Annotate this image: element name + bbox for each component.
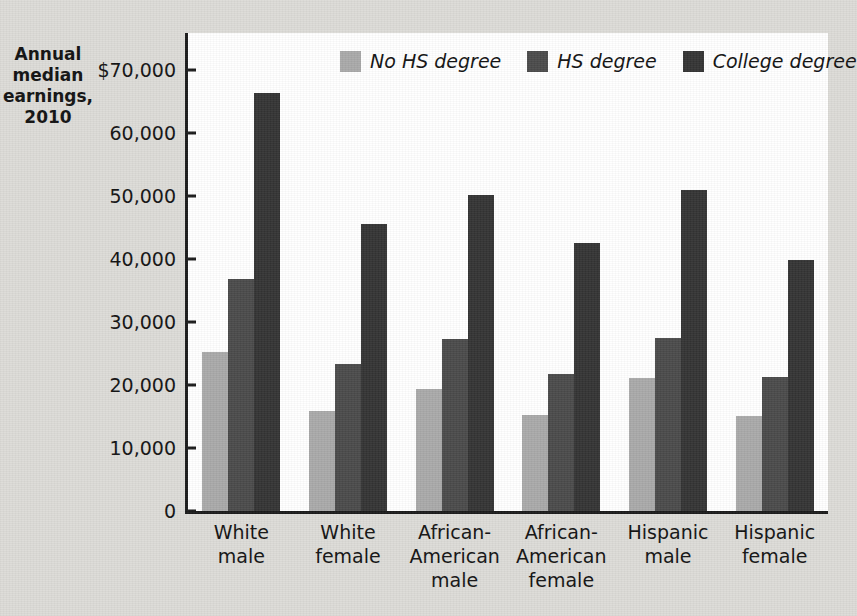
bar-group <box>629 33 707 511</box>
y-axis-tick-label: 30,000 <box>110 311 176 333</box>
bar <box>416 389 442 511</box>
x-axis-tick-label-line: African- <box>401 520 508 544</box>
legend-swatch-icon <box>527 51 548 72</box>
x-axis-tick-label-line: female <box>295 544 402 568</box>
x-axis-tick-label-line: White <box>188 520 295 544</box>
bar <box>655 338 681 511</box>
bar <box>788 260 814 511</box>
bar <box>254 93 280 511</box>
y-axis-tick-mark <box>185 384 196 387</box>
x-axis-tick-label-line: male <box>615 544 722 568</box>
bar <box>629 378 655 511</box>
y-axis-tick-label: 60,000 <box>110 122 176 144</box>
bar <box>361 224 387 511</box>
y-axis-tick-mark <box>185 321 196 324</box>
y-axis-title: Annualmedianearnings,2010 <box>0 44 96 128</box>
bar <box>468 195 494 511</box>
y-axis-tick-mark <box>185 69 196 72</box>
y-axis-tick-mark <box>185 195 196 198</box>
legend-label: College degree <box>713 50 857 72</box>
y-axis-title-line: 2010 <box>0 107 96 128</box>
bar-group <box>522 33 600 511</box>
y-axis-tick-label: 50,000 <box>110 185 176 207</box>
x-axis-tick-label-line: female <box>508 568 615 592</box>
legend-label: No HS degree <box>370 50 501 72</box>
y-axis-tick-label: 10,000 <box>110 437 176 459</box>
y-axis-tick-label: 0 <box>164 500 176 522</box>
bar-group <box>202 33 280 511</box>
y-axis-title-line: Annual <box>0 44 96 65</box>
x-axis-tick-label: African-Americanfemale <box>508 520 615 592</box>
bar-group <box>736 33 814 511</box>
y-axis-tick-label: $70,000 <box>97 59 176 81</box>
y-axis: $70,00060,00050,00040,00030,00020,00010,… <box>96 33 182 514</box>
y-axis-title-line: median <box>0 65 96 86</box>
bar <box>335 364 361 511</box>
x-axis-tick-label-line: female <box>721 544 828 568</box>
x-axis-tick-label-line: male <box>401 568 508 592</box>
bar <box>309 411 335 511</box>
bar <box>228 279 254 511</box>
y-axis-tick-mark <box>185 258 196 261</box>
bar-group <box>416 33 494 511</box>
bar <box>202 352 228 511</box>
x-axis-tick-label: Whitefemale <box>295 520 402 568</box>
y-axis-tick-mark <box>185 447 196 450</box>
x-axis: WhitemaleWhitefemaleAfrican-Americanmale… <box>188 520 828 612</box>
y-axis-tick-label: 20,000 <box>110 374 176 396</box>
legend-item: No HS degree <box>340 50 501 72</box>
legend-item: HS degree <box>527 50 656 72</box>
chart-legend: No HS degreeHS degreeCollege degree <box>340 50 857 72</box>
bar <box>548 374 574 511</box>
bar <box>442 339 468 511</box>
x-axis-tick-label: Hispanicfemale <box>721 520 828 568</box>
x-axis-tick-label: African-Americanmale <box>401 520 508 592</box>
x-axis-tick-label-line: White <box>295 520 402 544</box>
bar <box>574 243 600 511</box>
x-axis-tick-label-line: Hispanic <box>721 520 828 544</box>
legend-swatch-icon <box>683 51 704 72</box>
legend-label: HS degree <box>557 50 656 72</box>
legend-item: College degree <box>683 50 857 72</box>
y-axis-tick-label: 40,000 <box>110 248 176 270</box>
bar <box>736 416 762 511</box>
bar <box>522 415 548 511</box>
x-axis-tick-label-line: African- <box>508 520 615 544</box>
bar <box>681 190 707 511</box>
x-axis-tick-label-line: American <box>401 544 508 568</box>
x-axis-tick-label: Whitemale <box>188 520 295 568</box>
x-axis-tick-label-line: American <box>508 544 615 568</box>
y-axis-tick-mark <box>185 132 196 135</box>
bars-layer <box>188 33 828 511</box>
y-axis-title-line: earnings, <box>0 86 96 107</box>
bar <box>762 377 788 511</box>
x-axis-tick-label: Hispanicmale <box>615 520 722 568</box>
legend-swatch-icon <box>340 51 361 72</box>
bar-group <box>309 33 387 511</box>
x-axis-tick-label-line: Hispanic <box>615 520 722 544</box>
x-axis-tick-label-line: male <box>188 544 295 568</box>
y-axis-tick-mark <box>185 510 196 513</box>
